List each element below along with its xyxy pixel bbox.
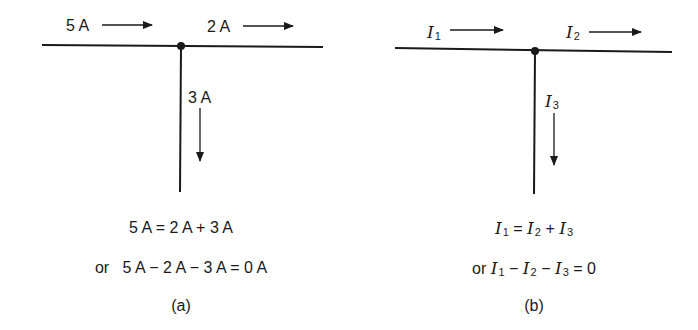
current-label-in-b: I1: [427, 24, 441, 42]
current-label-right-a: 2 A: [207, 19, 230, 35]
or-prefix: or: [95, 259, 109, 276]
junction-diagrams: [0, 0, 698, 330]
equation-b-line1: I1 = I2 + I3: [434, 219, 634, 239]
current-label-down-a: 3 A: [188, 90, 211, 106]
panel-a-circuit: [42, 25, 323, 192]
equation-a-line1: 5 A = 2 A + 3 A: [81, 219, 281, 237]
junction-node-b: [531, 47, 539, 55]
wire-vertical-a: [180, 46, 181, 192]
caption-b: (b): [504, 297, 564, 315]
equation-b-line2: or I1 − I2 − I3 = 0: [414, 259, 654, 279]
junction-node-a: [177, 42, 185, 50]
current-label-down-b: I3: [545, 93, 559, 111]
panel-b-circuit: [395, 30, 672, 194]
current-label-in-a: 5 A: [66, 18, 89, 34]
equation-a-line2: or 5 A − 2 A − 3 A = 0 A: [31, 259, 331, 277]
or-prefix: or: [472, 260, 486, 277]
caption-a: (a): [151, 297, 211, 315]
current-label-right-b: I2: [566, 24, 580, 42]
equation-a-line2-expr: 5 A − 2 A − 3 A = 0 A: [122, 259, 267, 276]
wire-vertical-b: [534, 51, 535, 194]
